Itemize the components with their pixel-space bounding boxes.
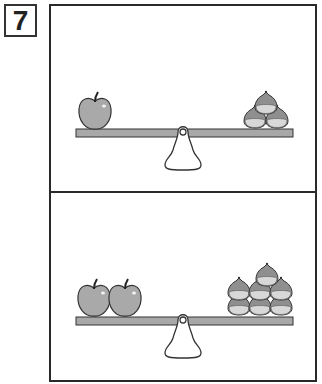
top-panel-scale — [76, 91, 293, 170]
chestnut-icon — [256, 263, 278, 286]
chestnut-icon — [255, 91, 277, 114]
bottom-panel-scale — [76, 263, 293, 358]
bottom-chestnut-pile — [228, 263, 292, 315]
apple-icon — [109, 279, 141, 316]
apple-icon — [78, 279, 110, 316]
balance-scenes — [0, 0, 322, 384]
top-chestnut-pile — [244, 91, 288, 128]
apple-icon — [79, 92, 111, 129]
chestnut-icon — [228, 277, 250, 300]
